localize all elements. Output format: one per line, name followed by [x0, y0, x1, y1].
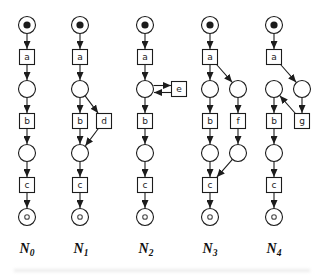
- place-circle: [137, 145, 154, 162]
- arc-p2-to-d: [85, 96, 98, 113]
- transition-node-c: c: [73, 178, 88, 193]
- place-node-p3: [266, 145, 283, 162]
- place-node-p3: [137, 145, 154, 162]
- net-label-N4: N4: [266, 241, 282, 258]
- transition-letter: b: [142, 116, 148, 126]
- place-node-p3: [72, 145, 89, 162]
- place-circle: [230, 81, 247, 98]
- end-token-icon: [208, 215, 213, 220]
- cropped-caption-artifact: [14, 269, 310, 272]
- arc-a-to-p2r: [217, 65, 233, 83]
- transition-letter: e: [176, 84, 182, 94]
- net-N3: abfcN3: [202, 17, 247, 258]
- transition-node-b: b: [73, 114, 88, 129]
- place-start-node-p1: [72, 17, 89, 34]
- place-circle: [19, 81, 36, 98]
- place-circle: [137, 81, 154, 98]
- transition-node-c: c: [20, 178, 35, 193]
- end-token-icon: [272, 215, 277, 220]
- place-circle: [294, 81, 311, 98]
- petri-net-figure: abcN0abdcN1aebcN2abfcN3abgcN4: [0, 0, 324, 275]
- net-label-N3: N3: [202, 241, 218, 258]
- net-label-N1: N1: [73, 241, 89, 258]
- transition-letter: b: [207, 116, 213, 126]
- transition-letter: c: [78, 180, 83, 190]
- transition-letter: a: [24, 52, 30, 62]
- start-token-icon: [141, 21, 148, 28]
- place-end-node-p4: [202, 209, 219, 226]
- transition-node-b: b: [138, 114, 153, 129]
- place-node-p2: [202, 81, 219, 98]
- transition-letter: a: [271, 52, 277, 62]
- transition-node-d: d: [97, 114, 112, 129]
- place-start-node-p1: [19, 17, 36, 34]
- transition-node-b: b: [267, 114, 282, 129]
- place-node-p2r: [294, 81, 311, 98]
- transition-node-a: a: [267, 50, 282, 65]
- place-end-node-p4: [137, 209, 154, 226]
- transition-node-a: a: [138, 50, 153, 65]
- place-node-p2: [137, 81, 154, 98]
- transition-node-a: a: [20, 50, 35, 65]
- net-label-N0: N0: [19, 241, 35, 258]
- net-N4: abgcN4: [266, 17, 311, 258]
- transition-letter: b: [77, 116, 83, 126]
- place-node-p2: [72, 81, 89, 98]
- place-node-p2r: [230, 81, 247, 98]
- place-circle: [72, 81, 89, 98]
- transition-letter: g: [299, 116, 305, 126]
- end-token-icon: [25, 215, 30, 220]
- transition-node-a: a: [73, 50, 88, 65]
- transition-letter: c: [143, 180, 148, 190]
- transition-node-b: b: [20, 114, 35, 129]
- transition-node-c: c: [203, 178, 218, 193]
- transition-letter: b: [24, 116, 30, 126]
- place-start-node-p1: [266, 17, 283, 34]
- transition-node-e: e: [172, 82, 187, 97]
- place-circle: [202, 145, 219, 162]
- arc-a-to-p2r: [281, 65, 297, 83]
- arc-g-to-p2l: [280, 96, 296, 114]
- place-end-node-p4: [266, 209, 283, 226]
- transition-node-c: c: [138, 178, 153, 193]
- start-token-icon: [206, 21, 213, 28]
- net-N2: aebcN2: [137, 17, 187, 258]
- transition-node-a: a: [203, 50, 218, 65]
- transition-letter: d: [101, 116, 107, 126]
- transition-letter: c: [272, 180, 277, 190]
- transition-node-g: g: [295, 114, 310, 129]
- arc-p3r-to-c: [217, 159, 233, 177]
- place-circle: [19, 145, 36, 162]
- place-node-p3: [202, 145, 219, 162]
- transition-letter: c: [25, 180, 30, 190]
- end-token-icon: [78, 215, 83, 220]
- place-start-node-p1: [137, 17, 154, 34]
- transition-letter: a: [77, 52, 83, 62]
- arc-d-to-p3: [85, 129, 98, 146]
- place-node-p3: [19, 145, 36, 162]
- petri-net-canvas: abcN0abdcN1aebcN2abfcN3abgcN4: [0, 0, 324, 275]
- start-token-icon: [23, 21, 30, 28]
- start-token-icon: [270, 21, 277, 28]
- transition-letter: c: [208, 180, 213, 190]
- place-circle: [202, 81, 219, 98]
- place-circle: [266, 81, 283, 98]
- place-start-node-p1: [202, 17, 219, 34]
- place-end-node-p4: [19, 209, 36, 226]
- transition-letter: a: [207, 52, 213, 62]
- place-circle: [72, 145, 89, 162]
- net-N1: abdcN1: [72, 17, 112, 258]
- transition-node-f: f: [231, 114, 246, 129]
- transition-node-c: c: [267, 178, 282, 193]
- transition-letter: a: [142, 52, 148, 62]
- transition-letter: b: [271, 116, 277, 126]
- net-N0: abcN0: [19, 17, 36, 258]
- place-circle: [266, 145, 283, 162]
- place-node-p3r: [230, 145, 247, 162]
- net-label-N2: N2: [138, 241, 154, 258]
- start-token-icon: [76, 21, 83, 28]
- place-node-p2l: [266, 81, 283, 98]
- place-circle: [230, 145, 247, 162]
- place-node-p2: [19, 81, 36, 98]
- transition-node-b: b: [203, 114, 218, 129]
